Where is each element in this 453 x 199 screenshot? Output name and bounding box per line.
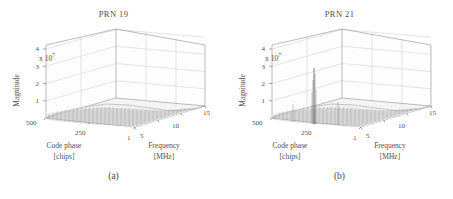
z-tick-2: 2 (253, 80, 265, 88)
y-axis-caption-line1: Frequency (352, 141, 428, 152)
y-axis-caption-b: Frequency [MHz] (352, 141, 428, 163)
y-axis-caption-line2: [MHz] (126, 152, 202, 163)
axes-3d-a: x 107 Magnitude 1 2 3 4 500 250 1 5 10 1… (0, 24, 227, 134)
y-tick-15: 15 (429, 109, 436, 117)
z-tick-2: 2 (27, 80, 39, 88)
z-tick-1: 1 (27, 97, 39, 105)
y-tick-15: 15 (203, 109, 210, 117)
y-axis-caption-a: Frequency [MHz] (126, 141, 202, 163)
z-tick-4: 4 (27, 45, 39, 53)
y-tick-5: 5 (140, 132, 144, 140)
subfigure-caption-a: (a) (0, 171, 227, 181)
x-tick-250: 250 (301, 129, 312, 137)
z-axis-label-a: Magnitude (12, 61, 21, 121)
z-exponent-label-a: x 107 (39, 52, 55, 63)
x-axis-caption-line2: [chips] (26, 152, 102, 163)
figure-gnss-acquisition: PRN 19 (0, 0, 453, 199)
axes-3d-b: x 107 Magnitude 1 2 3 4 500 250 1 5 10 1… (226, 24, 453, 134)
y-axis-caption-line2: [MHz] (352, 152, 428, 163)
x-axis-caption-line1: Code phase (26, 141, 102, 152)
y-axis-caption-line1: Frequency (126, 141, 202, 152)
x-axis-caption-line1: Code phase (252, 141, 328, 152)
z-axis-label-b: Magnitude (238, 61, 247, 121)
x-tick-500: 500 (26, 119, 37, 127)
z-tick-4: 4 (253, 45, 265, 53)
z-tick-1: 1 (253, 97, 265, 105)
z-exponent-label-b: x 107 (265, 52, 281, 63)
y-tick-10: 10 (398, 122, 405, 130)
x-tick-250: 250 (75, 129, 86, 137)
panel-title-a: PRN 19 (0, 9, 227, 19)
y-tick-10: 10 (172, 122, 179, 130)
z-tick-3: 3 (27, 63, 39, 71)
x-axis-caption-line2: [chips] (252, 152, 328, 163)
x-axis-caption-a: Code phase [chips] (26, 141, 102, 163)
subfigure-a: PRN 19 (0, 0, 227, 199)
subfigure-b: PRN 21 (226, 0, 453, 199)
z-tick-3: 3 (253, 63, 265, 71)
subfigure-caption-b: (b) (226, 171, 453, 181)
y-tick-5: 5 (366, 132, 370, 140)
x-axis-caption-b: Code phase [chips] (252, 141, 328, 163)
panel-title-b: PRN 21 (226, 9, 453, 19)
x-tick-500: 500 (252, 119, 263, 127)
